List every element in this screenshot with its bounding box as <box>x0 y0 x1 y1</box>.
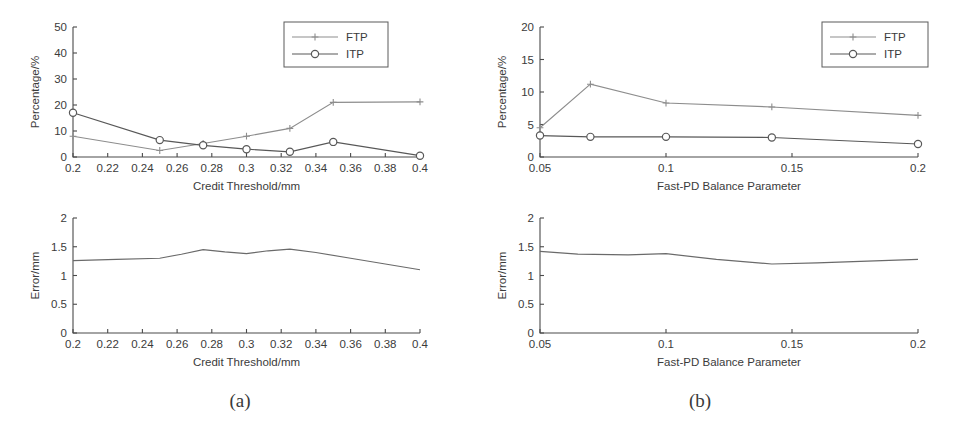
legend-label-ftp: FTP <box>884 31 906 43</box>
y-tick-label: 40 <box>54 47 67 59</box>
x-tick-label: 0.32 <box>270 338 292 350</box>
x-tick-label: 0.38 <box>374 162 396 174</box>
legend-marker-circle-icon <box>311 50 318 57</box>
series-line-ftp <box>540 84 918 128</box>
x-tick-label: 0.15 <box>781 162 803 174</box>
y-tick-label: 0 <box>528 327 534 339</box>
subfigure-caption-a: (a) <box>180 390 300 412</box>
data-marker-plus <box>70 133 77 140</box>
x-tick-label: 0.2 <box>910 338 926 350</box>
x-tick-label: 0.28 <box>201 162 223 174</box>
data-marker-circle <box>330 138 337 145</box>
data-marker-plus <box>156 147 163 154</box>
panel-b-top-svg: 0.050.10.150.205101520Fast-PD Balance Pa… <box>470 0 962 196</box>
y-axis-title: Percentage/% <box>29 56 41 128</box>
y-tick-label: 0 <box>61 327 67 339</box>
data-marker-plus <box>417 98 424 105</box>
x-tick-label: 0.3 <box>239 338 255 350</box>
data-marker-circle <box>286 148 293 155</box>
y-axis-title: Error/mm <box>496 252 508 300</box>
x-axis-title: Credit Threshold/mm <box>193 356 300 368</box>
data-marker-circle <box>200 142 207 149</box>
x-tick-label: 0.3 <box>239 162 255 174</box>
x-axis-title: Fast-PD Balance Parameter <box>657 356 801 368</box>
x-axis-title: Credit Threshold/mm <box>193 180 300 192</box>
x-tick-label: 0.05 <box>529 338 551 350</box>
series-line-itp <box>540 136 918 144</box>
data-marker-circle <box>587 133 594 140</box>
data-marker-circle <box>914 140 921 147</box>
legend-label-itp: ITP <box>346 48 364 60</box>
chart-panel-a-top: 0.20.220.240.260.280.30.320.340.360.380.… <box>0 0 470 196</box>
x-tick-label: 0.34 <box>305 338 328 350</box>
legend-label-ftp: FTP <box>346 31 368 43</box>
x-tick-label: 0.26 <box>166 338 188 350</box>
x-axis-title: Fast-PD Balance Parameter <box>657 180 801 192</box>
x-tick-label: 0.24 <box>131 338 154 350</box>
panel-a-top-svg: 0.20.220.240.260.280.30.320.340.360.380.… <box>0 0 470 196</box>
x-tick-label: 0.24 <box>131 162 154 174</box>
y-tick-label: 0.5 <box>518 298 534 310</box>
x-tick-label: 0.4 <box>412 338 429 350</box>
figure-container: 0.20.220.240.260.280.30.320.340.360.380.… <box>0 0 962 439</box>
x-tick-label: 0.36 <box>339 338 361 350</box>
data-marker-circle <box>69 109 76 116</box>
y-tick-label: 2 <box>61 212 67 224</box>
x-tick-label: 0.22 <box>97 162 119 174</box>
data-marker-circle <box>662 133 669 140</box>
y-tick-label: 50 <box>54 21 67 33</box>
y-tick-label: 1.5 <box>51 241 67 253</box>
x-tick-label: 0.28 <box>201 338 223 350</box>
data-marker-plus <box>330 99 337 106</box>
x-tick-label: 0.36 <box>339 162 361 174</box>
series-line-error <box>73 249 420 270</box>
x-tick-label: 0.2 <box>910 162 926 174</box>
y-tick-label: 1 <box>61 270 67 282</box>
x-tick-label: 0.32 <box>270 162 292 174</box>
x-tick-label: 0.38 <box>374 338 396 350</box>
x-tick-label: 0.15 <box>781 338 803 350</box>
data-marker-plus <box>915 112 922 119</box>
series-line-error <box>540 251 918 264</box>
y-tick-label: 0 <box>528 151 534 163</box>
y-tick-label: 30 <box>54 73 67 85</box>
y-tick-label: 1 <box>528 270 534 282</box>
panel-b-bottom-axis-lines <box>540 218 918 333</box>
y-tick-label: 10 <box>521 86 534 98</box>
legend-marker-circle-icon <box>849 50 856 57</box>
x-tick-label: 0.2 <box>65 162 81 174</box>
y-tick-label: 10 <box>54 125 67 137</box>
x-tick-label: 0.22 <box>97 338 119 350</box>
x-tick-label: 0.1 <box>658 338 674 350</box>
y-tick-label: 1.5 <box>518 241 534 253</box>
y-tick-label: 5 <box>528 119 534 131</box>
subfigure-caption-b: (b) <box>640 390 760 412</box>
legend-box <box>822 22 928 67</box>
data-marker-circle <box>536 132 543 139</box>
chart-panel-b-top: 0.050.10.150.205101520Fast-PD Balance Pa… <box>470 0 962 196</box>
legend-box <box>284 22 388 67</box>
data-marker-circle <box>243 146 250 153</box>
y-tick-label: 0.5 <box>51 298 67 310</box>
x-tick-label: 0.34 <box>305 162 328 174</box>
x-tick-label: 0.26 <box>166 162 188 174</box>
legend-label-itp: ITP <box>884 48 902 60</box>
data-marker-circle <box>768 134 775 141</box>
data-marker-plus <box>243 133 250 140</box>
y-axis-title: Error/mm <box>29 252 41 300</box>
data-marker-plus <box>663 100 670 107</box>
x-tick-label: 0.4 <box>412 162 429 174</box>
data-marker-circle <box>416 152 423 159</box>
y-tick-label: 0 <box>61 151 67 163</box>
x-tick-label: 0.05 <box>529 162 551 174</box>
series-line-ftp <box>73 102 420 151</box>
data-marker-plus <box>768 104 775 111</box>
y-tick-label: 20 <box>521 21 534 33</box>
panel-a-bottom-axis-lines <box>73 218 420 333</box>
data-marker-circle <box>156 137 163 144</box>
x-tick-label: 0.2 <box>65 338 81 350</box>
data-marker-plus <box>286 125 293 132</box>
y-tick-label: 2 <box>528 212 534 224</box>
y-tick-label: 20 <box>54 99 67 111</box>
y-tick-label: 15 <box>521 54 534 66</box>
